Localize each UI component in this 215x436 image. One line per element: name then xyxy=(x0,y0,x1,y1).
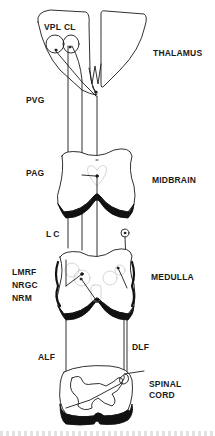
medulla-block xyxy=(57,249,135,314)
label-cord: CORD xyxy=(149,390,181,401)
label-pvg: PVG xyxy=(26,96,45,105)
label-lmrf: LMRF xyxy=(12,266,38,279)
label-alf: ALF xyxy=(38,353,55,362)
label-medulla-nuclei: LMRF NRGC NRM xyxy=(12,266,38,305)
midbrain-block xyxy=(57,149,135,212)
label-spinal: SPINAL xyxy=(149,379,181,390)
label-lc: LC xyxy=(46,230,61,239)
pain-pathway-diagram xyxy=(0,0,215,436)
cl-nucleus xyxy=(63,35,79,53)
label-midbrain: MIDBRAIN xyxy=(152,176,196,185)
label-thalamus: THALAMUS xyxy=(153,49,202,58)
label-pag: PAG xyxy=(26,169,44,178)
label-cl: CL xyxy=(64,23,76,32)
cut-off-caption xyxy=(0,431,215,436)
spinal-cord-outline xyxy=(60,366,133,417)
label-spinal-cord: SPINAL CORD xyxy=(149,379,181,401)
label-nrm: NRM xyxy=(12,292,38,305)
thalamus-right-hemisphere xyxy=(101,11,146,87)
label-vpl: VPL xyxy=(44,23,61,32)
label-dlf: DLF xyxy=(132,343,149,352)
label-nrgc: NRGC xyxy=(12,279,38,292)
label-medulla: MEDULLA xyxy=(151,273,194,282)
